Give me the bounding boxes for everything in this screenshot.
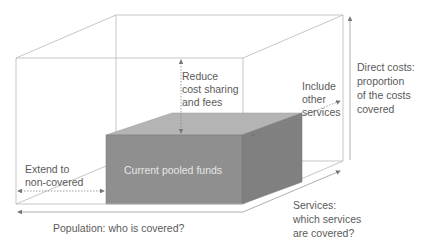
services-line-1: Services: <box>293 198 361 212</box>
population-axis-label: Population: who is covered? <box>53 222 184 235</box>
include-line-2: other <box>302 93 341 106</box>
direct-costs-line-2: proportion <box>357 74 415 88</box>
reduce-line-3: and fees <box>182 96 239 109</box>
direct-costs-axis-label: Direct costs: proportion of the costs co… <box>357 60 415 116</box>
direct-costs-line-3: of the costs <box>357 88 415 102</box>
current-pooled-funds-box <box>106 113 302 204</box>
extend-line-1: Extend to <box>25 163 83 176</box>
reduce-line-2: cost sharing <box>182 83 239 96</box>
extend-line-2: non-covered <box>25 176 83 189</box>
include-line-3: services <box>302 106 341 119</box>
services-axis-label: Services: which services are covered? <box>293 198 361 240</box>
reduce-line-1: Reduce <box>182 70 239 83</box>
direct-costs-line-1: Direct costs: <box>357 60 415 74</box>
include-other-services-label: Include other services <box>302 80 341 119</box>
current-pooled-funds-label: Current pooled funds <box>124 164 222 176</box>
services-line-3: are covered? <box>293 226 361 240</box>
include-line-1: Include <box>302 80 341 93</box>
extend-to-non-covered-label: Extend to non-covered <box>25 163 83 189</box>
reduce-cost-sharing-label: Reduce cost sharing and fees <box>182 70 239 109</box>
services-line-2: which services <box>293 212 361 226</box>
direct-costs-line-4: covered <box>357 102 415 116</box>
coverage-cube-diagram <box>0 0 430 249</box>
